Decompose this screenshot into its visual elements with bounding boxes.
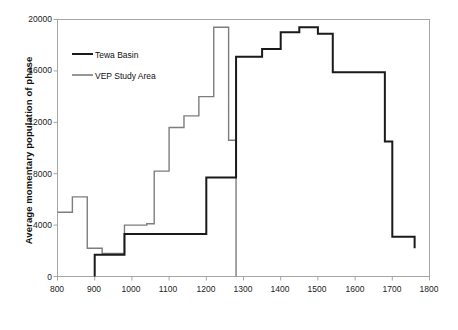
x-tick-label-1100: 1100 (148, 285, 188, 294)
x-tick-label-1200: 1200 (186, 285, 226, 294)
y-tick-label-16000: 16000 (12, 66, 52, 75)
y-tick-label-0: 0 (12, 273, 52, 282)
x-tick-label-1000: 1000 (111, 285, 151, 294)
x-tick-label-800: 800 (37, 285, 77, 294)
plot-canvas (0, 0, 458, 330)
x-tick-label-900: 900 (74, 285, 114, 294)
chart-figure: Average momentary population of phase 20… (0, 0, 458, 330)
legend-label-tewa-basin: Tewa Basin (95, 50, 138, 60)
x-tick-label-1500: 1500 (297, 285, 337, 294)
legend-label-vep-study-area: VEP Study Area (95, 71, 156, 81)
y-tick-label-4000: 4000 (12, 221, 52, 230)
y-tick-label-20000: 20000 (12, 15, 52, 24)
x-tick-label-1700: 1700 (372, 285, 412, 294)
y-axis-title: Average momentary population of phase (23, 26, 34, 276)
series-tewa-basin (95, 27, 415, 276)
legend-swatches (72, 54, 93, 75)
x-axis-ticks (58, 277, 430, 281)
y-tick-label-12000: 12000 (12, 118, 52, 127)
x-tick-label-1400: 1400 (260, 285, 300, 294)
x-tick-label-1800: 1800 (409, 285, 449, 294)
y-axis-ticks (54, 20, 58, 277)
x-tick-label-1300: 1300 (223, 285, 263, 294)
series-vep-study-area (58, 27, 237, 276)
y-tick-label-8000: 8000 (12, 170, 52, 179)
x-tick-label-1600: 1600 (335, 285, 375, 294)
